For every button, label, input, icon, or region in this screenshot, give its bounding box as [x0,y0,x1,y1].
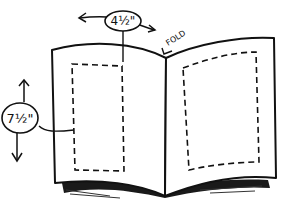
width-label: 4½" [111,14,136,28]
fold-label: FOLD [164,29,187,48]
booklet-diagram: FOLD 4½" 7½" [0,0,288,214]
right-page [165,38,276,196]
left-page [52,44,166,196]
height-label: 7½" [7,111,34,126]
